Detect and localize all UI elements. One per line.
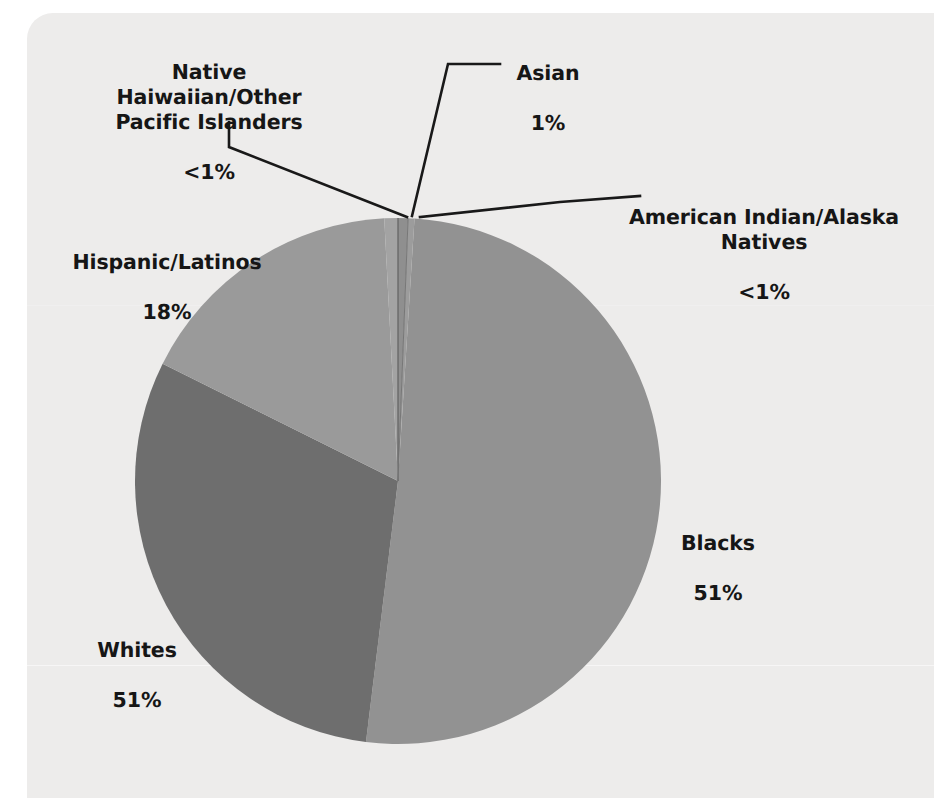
pie-label-asian: Asian 1%	[478, 36, 618, 161]
pie-label-whites-value: 51%	[62, 688, 212, 713]
pie-label-native-hawaiian: Native Haiwaiian/Other Pacific Islanders…	[84, 35, 334, 210]
pie-label-american-indian-value: <1%	[614, 280, 914, 305]
leader-line-american-indian	[420, 196, 640, 217]
pie-label-native-hawaiian-name: Native Haiwaiian/Other Pacific Islanders	[84, 60, 334, 135]
pie-label-american-indian-name: American Indian/Alaska Natives	[614, 205, 914, 255]
pie-label-american-indian: American Indian/Alaska Natives <1%	[614, 180, 914, 330]
pie-chart: Native Haiwaiian/Other Pacific Islanders…	[0, 0, 934, 798]
pie-label-whites-name: Whites	[62, 638, 212, 663]
pie-label-hispanic-latinos: Hispanic/Latinos 18%	[52, 225, 282, 350]
pie-label-hispanic-latinos-value: 18%	[52, 300, 282, 325]
pie-label-blacks: Blacks 51%	[648, 506, 788, 631]
pie-label-whites: Whites 51%	[62, 613, 212, 738]
pie-label-blacks-name: Blacks	[648, 531, 788, 556]
pie-label-asian-name: Asian	[478, 61, 618, 86]
pie-label-hispanic-latinos-name: Hispanic/Latinos	[52, 250, 282, 275]
pie-label-asian-value: 1%	[478, 111, 618, 136]
pie-label-native-hawaiian-value: <1%	[84, 160, 334, 185]
pie-label-blacks-value: 51%	[648, 581, 788, 606]
